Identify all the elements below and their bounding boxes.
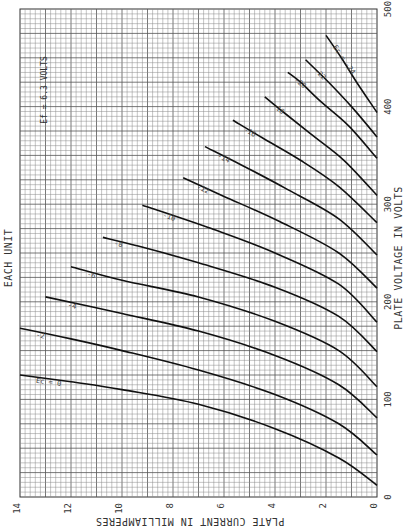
voltage-tick-label: 0: [383, 494, 393, 499]
current-tick-label: 4: [267, 503, 277, 508]
x-axis-title-voltage: PLATE VOLTAGE IN VOLTS: [393, 186, 404, 329]
current-tick-label: 6: [216, 503, 226, 508]
current-tick-label: 14: [12, 503, 22, 514]
filament-voltage-annotation: Ef = 6.3 VOLTS: [40, 56, 49, 124]
chart-grid: [20, 9, 377, 497]
current-tick-label: 8: [165, 503, 175, 508]
chart-title: EACH UNIT: [3, 229, 14, 288]
plate-characteristics-chart: Ec = 0-2-4-6-8-10-12-14-16-18-20-22Ec = …: [0, 0, 413, 531]
curve-label: -2: [35, 331, 45, 341]
voltage-tick-label: 100: [383, 391, 393, 407]
voltage-tick-label: 400: [383, 98, 393, 114]
voltage-tick-label: 500: [383, 1, 393, 17]
current-tick-label: 10: [114, 503, 124, 514]
voltage-tick-label: 300: [383, 196, 393, 212]
current-tick-label: 12: [63, 503, 73, 514]
current-tick-label: 0: [369, 503, 379, 508]
y-axis-title-current: PLATE CURRENT IN MILLIAMPERES: [95, 516, 284, 527]
current-tick-label: 2: [318, 503, 328, 508]
voltage-tick-label: 200: [383, 294, 393, 310]
